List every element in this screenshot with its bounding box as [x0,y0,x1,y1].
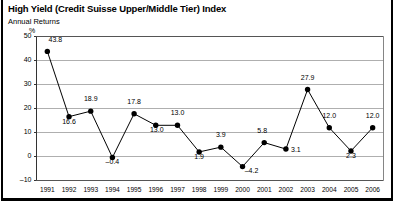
data-point-label: –0.4 [99,158,125,165]
series-line [47,51,372,166]
data-point-label: 13.0 [144,126,170,133]
y-axis-tick-label: 50 [10,32,32,39]
series-markers [45,49,376,170]
data-point-label: 16.6 [56,118,82,125]
y-axis-tick-label: 20 [10,104,32,111]
chart-page: High Yield (Credit Suisse Upper/Middle T… [0,0,395,209]
data-point-label: –4.2 [239,167,265,174]
data-point-marker [262,140,267,145]
y-axis-tick-label: 40 [10,56,32,63]
y-axis-tick-label: 30 [10,80,32,87]
data-point-marker [327,125,332,130]
data-point-marker [45,49,50,54]
data-point-label: 1.9 [186,153,212,160]
page-border-right [391,0,393,200]
data-point-marker [370,125,375,130]
data-point-label: 12.0 [316,112,342,119]
data-point-label: 27.9 [295,74,321,81]
x-axis-tick-label: 2006 [360,186,386,193]
data-point-label: 3.9 [208,131,234,138]
data-point-label: 18.9 [78,95,104,102]
data-point-marker [305,87,310,92]
data-point-marker [175,123,180,128]
y-axis-tick-label: 0 [10,152,32,159]
data-point-label: 13.0 [164,109,190,116]
data-point-marker [131,111,136,116]
page-border-left [1,0,3,200]
plot-area: –1001020304050 1991199219931994199519961… [0,0,395,209]
data-point-label: 3.1 [283,146,309,153]
data-point-marker [218,144,223,149]
data-point-label: 17.8 [121,98,147,105]
chart-svg [0,0,395,209]
data-point-marker [88,108,93,113]
data-point-label: 43.8 [42,36,68,43]
page-bottom-rule [1,198,393,201]
y-axis-tick-label: 10 [10,128,32,135]
data-point-label: 12.0 [360,112,386,119]
y-axis-tick-label: –10 [10,176,32,183]
data-point-label: 5.8 [249,127,275,134]
data-point-label: 2.3 [338,152,364,159]
